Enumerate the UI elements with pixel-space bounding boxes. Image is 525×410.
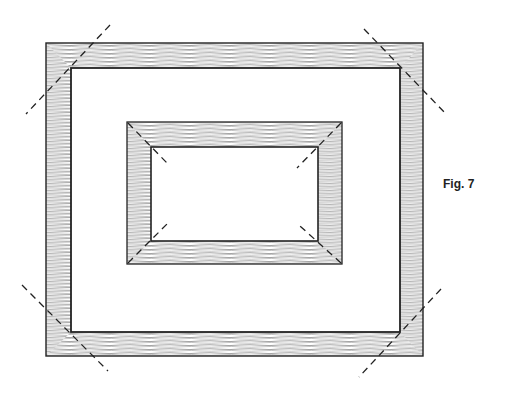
figure-caption: Fig. 7: [443, 177, 474, 191]
inner-frame-top-rail: [127, 122, 342, 147]
outer-frame-left-stile: [46, 43, 71, 356]
outer-frame-right-stile: [400, 43, 423, 356]
outer-frame-bottom-rail: [46, 332, 423, 356]
inner-frame-bottom-rail: [127, 241, 342, 264]
figure-diagram: [0, 0, 525, 410]
outer-frame-top-rail: [46, 43, 423, 68]
inner-frame: [127, 122, 342, 264]
